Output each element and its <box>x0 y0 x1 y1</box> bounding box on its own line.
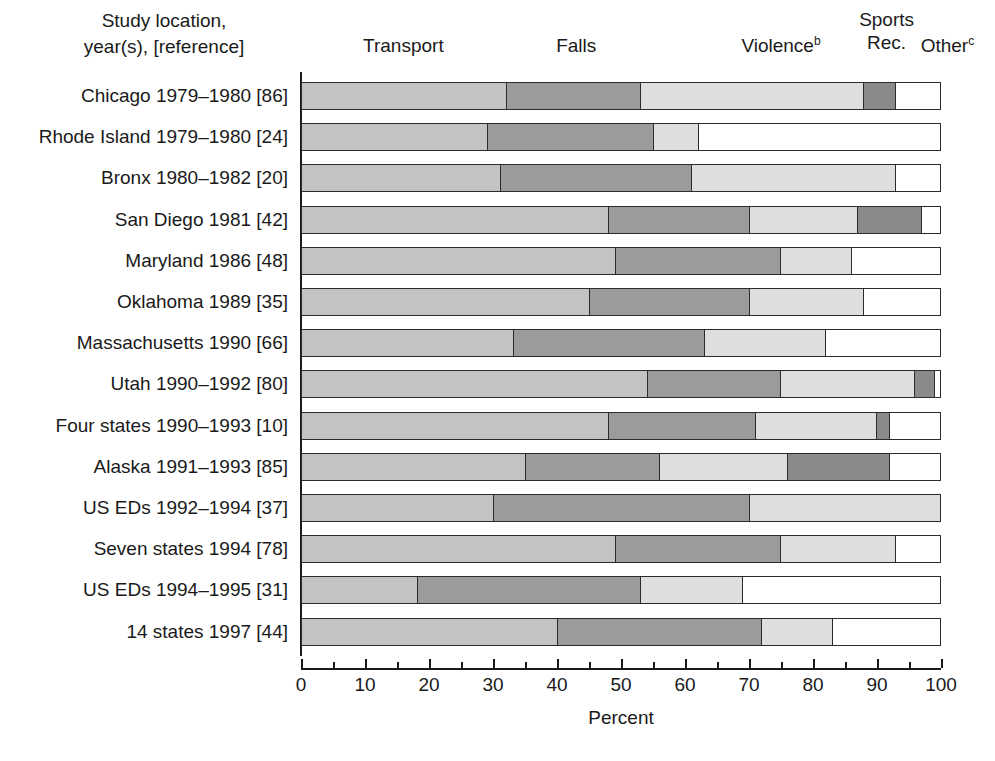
bar-segment-other <box>889 454 940 480</box>
bar-segment-other <box>825 330 940 356</box>
x-tick <box>557 659 559 668</box>
bar-segments <box>302 536 940 562</box>
x-tick-label: 90 <box>866 674 887 696</box>
row-label: Chicago 1979–1980 [86] <box>0 82 288 110</box>
bar-segment-sports <box>787 454 889 480</box>
row-label: 14 states 1997 [44] <box>0 618 288 646</box>
x-tick-label: 30 <box>482 674 503 696</box>
bar-segment-violence <box>749 495 940 521</box>
x-tick <box>365 659 367 668</box>
bar-segment-transport <box>302 619 557 645</box>
bar-segment-violence <box>780 536 895 562</box>
bar-segment-other <box>934 371 940 397</box>
bar-row <box>301 576 941 604</box>
bar-segments <box>302 330 940 356</box>
bar-row <box>301 453 941 481</box>
bar-segment-violence <box>749 289 864 315</box>
bar-segment-other <box>832 619 940 645</box>
bar-segment-other <box>895 536 940 562</box>
x-tick <box>813 659 815 668</box>
x-axis: 0102030405060708090100 <box>301 668 941 670</box>
x-tick-minor <box>589 662 591 668</box>
bar-segment-violence <box>704 330 825 356</box>
bar-row <box>301 370 941 398</box>
bar-segment-sports <box>876 413 889 439</box>
footnote-marker: c <box>968 34 974 48</box>
bar-segment-transport <box>302 577 417 603</box>
x-tick <box>429 659 431 668</box>
bar-row <box>301 494 941 522</box>
bar-segment-violence <box>640 577 742 603</box>
bar-segment-violence <box>780 371 914 397</box>
plot-area <box>301 72 941 656</box>
bar-segment-transport <box>302 124 487 150</box>
row-label: US EDs 1994–1995 [31] <box>0 576 288 604</box>
x-tick-label: 100 <box>925 674 957 696</box>
bar-segments <box>302 577 940 603</box>
row-label: Maryland 1986 [48] <box>0 247 288 275</box>
segment-header-label: Transport <box>363 35 444 56</box>
x-tick-minor <box>653 662 655 668</box>
bar-segment-violence <box>640 83 863 109</box>
x-tick-minor <box>397 662 399 668</box>
bar-segment-sports <box>857 207 921 233</box>
bar-segment-transport <box>302 330 513 356</box>
x-tick-label: 50 <box>610 674 631 696</box>
x-tick-minor <box>717 662 719 668</box>
stacked-bar-chart-figure: Study location, year(s), [reference] Tra… <box>0 0 995 761</box>
bar-segments <box>302 495 940 521</box>
bar-segment-transport <box>302 413 608 439</box>
bar-segment-transport <box>302 289 589 315</box>
bar-row <box>301 164 941 192</box>
row-label: Four states 1990–1993 [10] <box>0 412 288 440</box>
bar-segments <box>302 619 940 645</box>
bar-segment-falls <box>500 165 691 191</box>
x-tick-minor <box>333 662 335 668</box>
row-label: Rhode Island 1979–1980 [24] <box>0 123 288 151</box>
segment-header-falls: Falls <box>506 34 646 57</box>
bar-segments <box>302 207 940 233</box>
bar-segment-falls <box>647 371 781 397</box>
bar-segment-transport <box>302 83 506 109</box>
bar-segment-violence <box>780 248 850 274</box>
row-label: Oklahoma 1989 [35] <box>0 288 288 316</box>
bar-segment-falls <box>608 413 755 439</box>
x-tick-label: 40 <box>546 674 567 696</box>
bar-segment-falls <box>493 495 748 521</box>
bar-segment-falls <box>589 289 749 315</box>
bar-segment-falls <box>615 248 781 274</box>
bar-segment-other <box>698 124 940 150</box>
bar-row <box>301 329 941 357</box>
bar-segment-violence <box>659 454 787 480</box>
x-tick-label: 0 <box>296 674 307 696</box>
bar-segment-transport <box>302 454 525 480</box>
bar-segment-falls <box>417 577 640 603</box>
row-label: San Diego 1981 [42] <box>0 206 288 234</box>
row-label-column-header: Study location, year(s), [reference] <box>28 8 300 60</box>
bar-segment-violence <box>653 124 698 150</box>
bar-segments <box>302 413 940 439</box>
segment-header-label: Violence <box>741 35 814 56</box>
x-tick-label: 80 <box>802 674 823 696</box>
bar-segment-violence <box>691 165 895 191</box>
row-label: Massachusetts 1990 [66] <box>0 329 288 357</box>
bar-segment-other <box>889 413 940 439</box>
bar-segments <box>302 371 940 397</box>
row-label: Alaska 1991–1993 [85] <box>0 453 288 481</box>
x-tick-label: 70 <box>738 674 759 696</box>
bar-segment-violence <box>755 413 876 439</box>
bar-segment-falls <box>487 124 653 150</box>
bar-segment-transport <box>302 207 608 233</box>
y-axis-line <box>300 72 302 656</box>
bar-segment-sports <box>863 83 895 109</box>
row-label: Utah 1990–1992 [80] <box>0 370 288 398</box>
x-tick <box>877 659 879 668</box>
bar-segment-other <box>863 289 940 315</box>
segment-header-label: Falls <box>556 35 596 56</box>
x-tick-minor <box>781 662 783 668</box>
x-tick <box>749 659 751 668</box>
x-tick <box>621 659 623 668</box>
bar-segment-transport <box>302 165 500 191</box>
segment-header-transport: Transport <box>333 34 473 57</box>
bar-segments <box>302 124 940 150</box>
